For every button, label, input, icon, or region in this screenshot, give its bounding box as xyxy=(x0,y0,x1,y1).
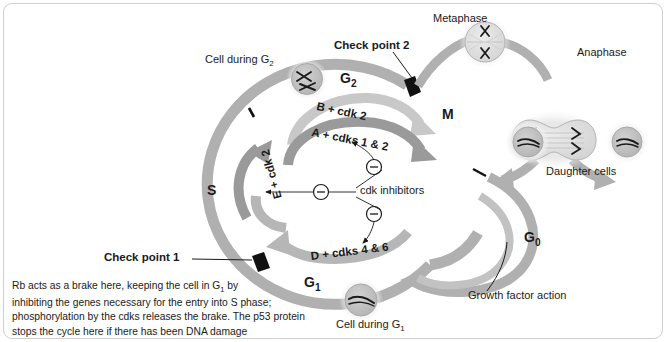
phase-label-g2: G2 xyxy=(340,70,357,89)
anaphase-label: Anaphase xyxy=(577,46,627,59)
caption-line-4: stops the cycle here if there has been D… xyxy=(12,325,312,340)
cell-during-g2-icon xyxy=(286,58,328,100)
cyclin-e-cdk2-arc xyxy=(256,196,286,228)
phase-tick-mark xyxy=(249,108,254,117)
cdk-inhibitor-symbol-middle xyxy=(314,185,329,200)
check-point-1-label: Check point 1 xyxy=(104,251,179,264)
caption-line-1: Rb acts as a brake here, keeping the cel… xyxy=(12,279,312,296)
phase-label-m: M xyxy=(442,106,454,122)
caption-line-2: inhibiting the genes necessary for the e… xyxy=(12,296,312,311)
cell-during-g1-icon xyxy=(339,278,383,322)
diagram-page: Cell during G2 Metaphase Anaphase Daught… xyxy=(0,0,668,342)
phase-label-g0: G0 xyxy=(524,229,541,248)
g0-entry-tick xyxy=(473,169,486,176)
cell-during-g1-label: Cell during G1 xyxy=(336,318,405,333)
cdk-inhibitors-label: cdk inhibitors xyxy=(360,184,424,197)
figure-caption: Rb acts as a brake here, keeping the cel… xyxy=(12,279,312,339)
growth-factor-action-label: Growth factor action xyxy=(468,289,566,302)
phase-label-s: S xyxy=(207,182,216,198)
check-point-1-leader xyxy=(192,259,252,260)
check-point-1-block xyxy=(252,252,270,272)
caption-line-3: phosphorylation by the cdks releases the… xyxy=(12,310,312,325)
metaphase-label: Metaphase xyxy=(433,12,487,25)
check-point-2-label: Check point 2 xyxy=(334,39,409,52)
daughter-cells-label: Daughter cells xyxy=(546,165,616,178)
cell-during-g2-label: Cell during G2 xyxy=(205,53,274,68)
